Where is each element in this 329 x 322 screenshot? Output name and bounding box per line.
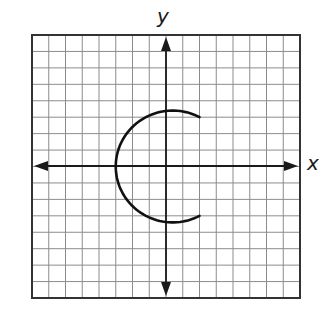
y-axis-up-arrow-icon: [161, 37, 171, 51]
y-axis-label: y: [157, 6, 169, 26]
x-axis-label: x: [307, 153, 319, 173]
coordinate-plane: [0, 0, 329, 322]
x-axis-right-arrow-icon: [284, 161, 298, 171]
x-axis-left-arrow-icon: [34, 161, 48, 171]
y-axis-down-arrow-icon: [161, 282, 171, 296]
